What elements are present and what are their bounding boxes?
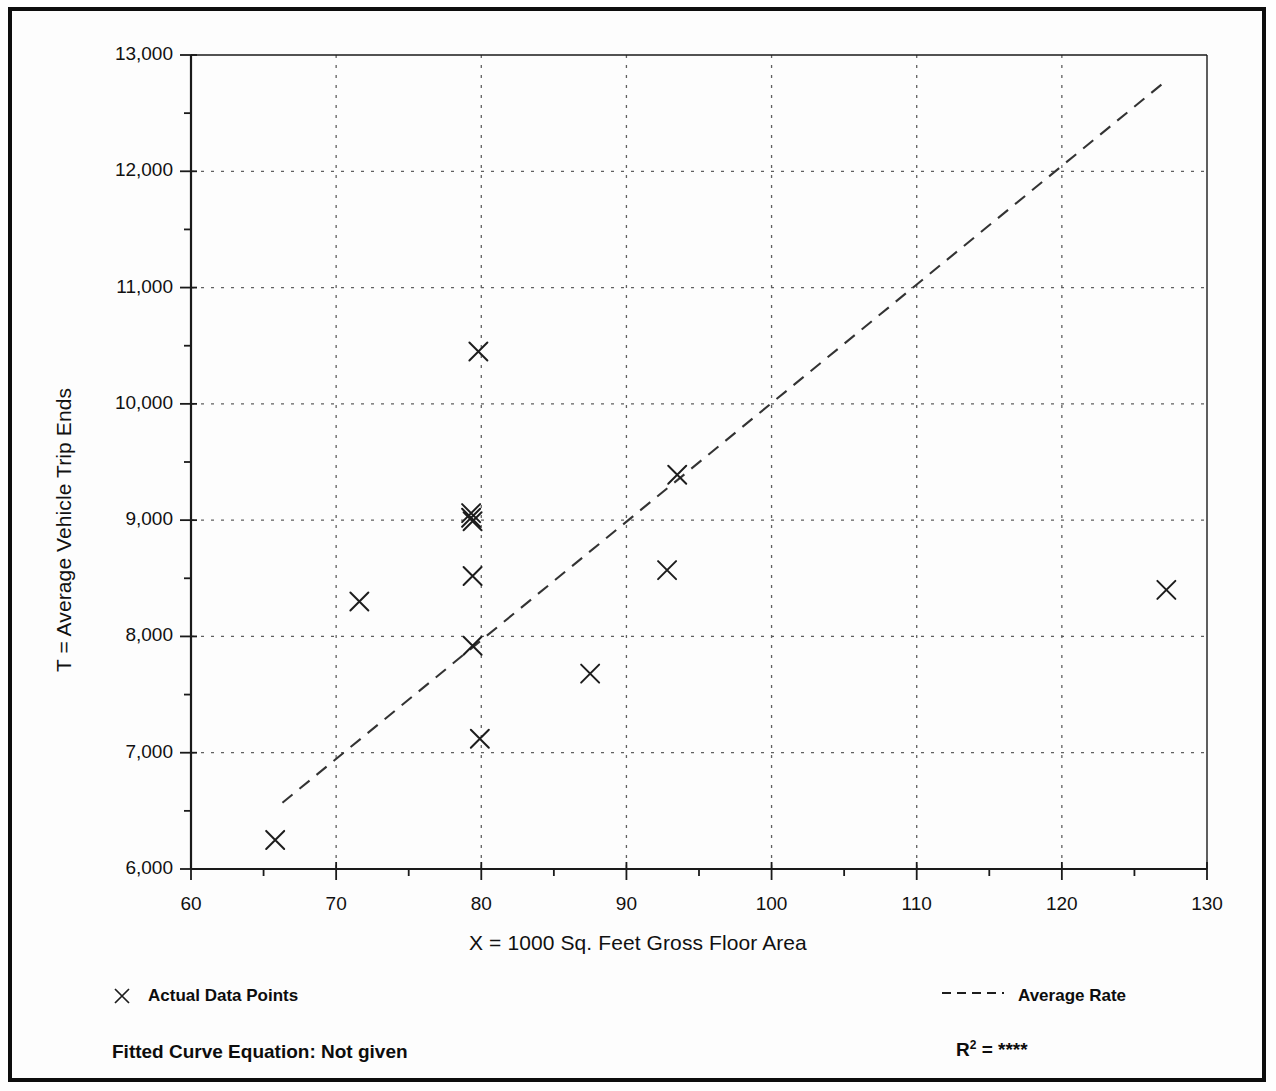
x-axis-tick-label: 80	[441, 893, 521, 915]
y-axis-title: T = Average Vehicle Trip Ends	[52, 388, 76, 672]
r2-symbol: R	[956, 1039, 970, 1060]
average-rate-trendline	[282, 83, 1163, 803]
r2-stars: ****	[998, 1039, 1028, 1060]
x-axis-tick-label: 130	[1167, 893, 1247, 915]
x-marker-icon	[112, 986, 132, 1006]
legend-label-data-points: Actual Data Points	[148, 986, 298, 1006]
y-axis-tick-label: 6,000	[81, 857, 173, 879]
y-axis-tick-label: 9,000	[81, 508, 173, 530]
data-point-markers	[266, 343, 1175, 849]
r2-equals: =	[976, 1039, 998, 1060]
scatter-chart-canvas	[0, 0, 1276, 1091]
dashed-line-icon	[941, 986, 1005, 1000]
x-axis-tick-label: 60	[151, 893, 231, 915]
x-axis-tick-label: 110	[877, 893, 957, 915]
legend-label-average-rate: Average Rate	[1018, 986, 1126, 1006]
x-axis-tick-label: 70	[296, 893, 376, 915]
r-squared-value: R2 = ****	[956, 1038, 1028, 1061]
x-axis-title: X = 1000 Sq. Feet Gross Floor Area	[0, 931, 1276, 955]
y-axis-tick-label: 11,000	[81, 276, 173, 298]
y-axis-tick-label: 8,000	[81, 624, 173, 646]
fitted-curve-equation: Fitted Curve Equation: Not given	[112, 1041, 408, 1063]
y-axis-tick-label: 7,000	[81, 741, 173, 763]
y-axis-tick-label: 13,000	[81, 43, 173, 65]
x-axis-tick-label: 120	[1022, 893, 1102, 915]
y-axis-tick-label: 10,000	[81, 392, 173, 414]
chart-page: 6,0007,0008,0009,00010,00011,00012,00013…	[0, 0, 1276, 1091]
x-axis-tick-label: 90	[586, 893, 666, 915]
x-axis-tick-label: 100	[732, 893, 812, 915]
y-axis-tick-label: 12,000	[81, 159, 173, 181]
